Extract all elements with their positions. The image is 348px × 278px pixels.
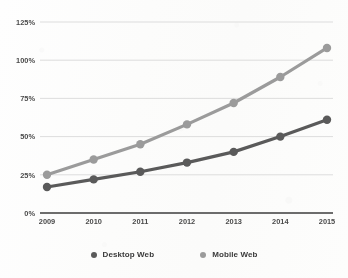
data-point-marker	[136, 168, 144, 176]
circle-marker-icon	[91, 252, 97, 258]
chart-legend: Desktop WebMobile Web	[0, 250, 348, 259]
chart-container: 0%25%50%75%100%125% 20092010201120122013…	[0, 0, 348, 278]
x-axis-tick-label: 2013	[225, 217, 241, 226]
x-axis-tick-label: 2012	[179, 217, 195, 226]
data-point-marker	[229, 148, 237, 156]
data-point-marker	[323, 44, 331, 52]
legend-item[interactable]: Mobile Web	[200, 250, 257, 259]
x-axis-tick-label: 2015	[319, 217, 335, 226]
line-chart-plot: 0%25%50%75%100%125% 20092010201120122013…	[0, 0, 348, 278]
series-line	[47, 120, 327, 187]
y-axis-tick-label: 50%	[20, 132, 35, 141]
data-point-marker	[183, 158, 191, 166]
data-point-marker	[183, 120, 191, 128]
x-axis-tick-label: 2014	[272, 217, 289, 226]
data-point-marker	[276, 73, 284, 81]
y-axis-tick-label: 75%	[20, 94, 35, 103]
x-axis-labels-group: 2009201020112012201320142015	[39, 217, 335, 226]
legend-item-label: Desktop Web	[103, 250, 155, 259]
data-series-group	[43, 44, 331, 191]
legend-item[interactable]: Desktop Web	[91, 250, 155, 259]
y-axis-tick-label: 125%	[16, 18, 35, 27]
x-axis-tick-label: 2009	[39, 217, 55, 226]
series-line	[47, 48, 327, 175]
y-axis-tick-label: 25%	[20, 171, 35, 180]
legend-item-label: Mobile Web	[212, 250, 257, 259]
y-axis-labels-group: 0%25%50%75%100%125%	[16, 18, 35, 218]
data-point-marker	[89, 155, 97, 163]
y-axis-tick-label: 0%	[24, 209, 35, 218]
data-point-marker	[323, 116, 331, 124]
x-axis-tick-label: 2011	[132, 217, 148, 226]
gridlines-group	[40, 22, 333, 175]
data-point-marker	[136, 140, 144, 148]
data-point-marker	[89, 175, 97, 183]
data-point-marker	[229, 99, 237, 107]
data-point-marker	[43, 183, 51, 191]
circle-marker-icon	[200, 252, 206, 258]
y-axis-tick-label: 100%	[16, 56, 35, 65]
data-point-marker	[43, 171, 51, 179]
x-axis-tick-label: 2010	[85, 217, 101, 226]
data-point-marker	[276, 132, 284, 140]
